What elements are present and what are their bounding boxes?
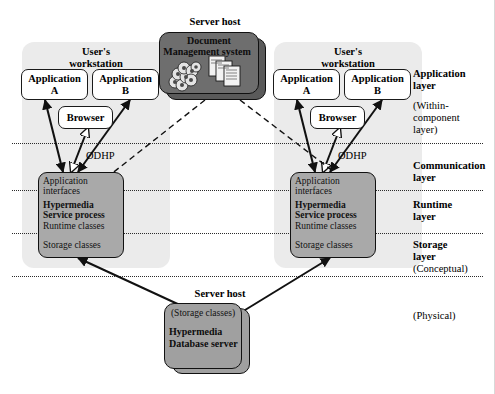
server-bottom-name-line2: Database server (169, 338, 245, 350)
app-b-label-line2-right: B (351, 85, 404, 97)
stack-left-row-3: Service process (39, 210, 123, 220)
stack-right-row-2: Hypermedia (291, 200, 375, 210)
app-a-label-line1-right: Application (280, 73, 333, 85)
legend-physical: (Physical) (413, 310, 456, 322)
stack-right-row-5: Storage classes (291, 240, 375, 250)
stack-left-row-4: Runtime classes (39, 221, 123, 231)
stack-right-row-4: Runtime classes (291, 221, 375, 231)
browser-label-right: Browser (319, 112, 357, 124)
workstation-right-title: User's workstation (274, 46, 422, 70)
legend-runtime-layer: Runtime layer (413, 199, 452, 223)
browser-label: Browser (67, 112, 105, 124)
workstation-right-application-b[interactable]: Application B (344, 69, 411, 100)
workstation-left-title-line1: User's (22, 46, 170, 58)
workstation-left-service-stack: Application interfaces Hypermedia Servic… (38, 172, 124, 258)
workstation-right-application-a[interactable]: Application A (273, 69, 340, 100)
workstation-left-browser[interactable]: Browser (58, 106, 113, 129)
architecture-diagram: User's workstation Application A Applica… (0, 0, 495, 394)
app-b-label-line1-right: Application (351, 73, 404, 85)
media-cluster-icon (166, 58, 206, 91)
stack-right-row-1: interfaces (291, 186, 375, 196)
stack-left-row-5: Storage classes (39, 240, 123, 250)
stack-right-row-3: Service process (291, 210, 375, 220)
server-top-name-line1: Document (160, 35, 258, 46)
workstation-left-application-a[interactable]: Application A (21, 69, 88, 100)
workstation-right-odhp-label: ODHP (338, 150, 367, 161)
app-b-label-line1: Application (99, 73, 152, 85)
stack-left-row-0: Application (39, 176, 123, 186)
legend-conceptual: (Conceptual) (413, 263, 468, 275)
stack-left-row-2: Hypermedia (39, 200, 123, 210)
server-bottom-box[interactable]: (Storage classes) Hypermedia Database se… (164, 303, 242, 369)
legend-within-component: (Within- component layer) (413, 100, 460, 136)
workstation-right-title-line1: User's (274, 46, 422, 58)
server-bottom-storage-label: (Storage classes) (165, 308, 241, 319)
stack-left-row-1: interfaces (39, 186, 123, 196)
legend-storage-layer: Storage layer (413, 239, 447, 263)
workstation-right-browser[interactable]: Browser (310, 106, 365, 129)
workstation-left-title: User's workstation (22, 46, 170, 70)
legend-communication-layer: Communication layer (413, 160, 485, 184)
app-a-label-line2: A (28, 85, 81, 97)
workstation-right-service-stack: Application interfaces Hypermedia Servic… (290, 172, 376, 258)
dashed-link-docserver-left (110, 100, 205, 175)
server-bottom-name-line1: Hypermedia (169, 326, 245, 338)
legend-application-layer: Application layer (413, 68, 466, 92)
app-b-label-line2: B (99, 85, 152, 97)
app-a-label-line1: Application (28, 73, 81, 85)
workstation-left-application-b[interactable]: Application B (92, 69, 159, 100)
workstation-left-odhp-label: ODHP (86, 150, 115, 161)
stack-right-row-0: Application (291, 176, 375, 186)
app-a-label-line2-right: A (280, 85, 333, 97)
document-stack-icon (208, 55, 252, 91)
server-top-box[interactable]: Document Management system (159, 32, 259, 94)
server-bottom-host-label: Server host (150, 288, 290, 300)
server-top-host-label: Server host (150, 16, 280, 28)
